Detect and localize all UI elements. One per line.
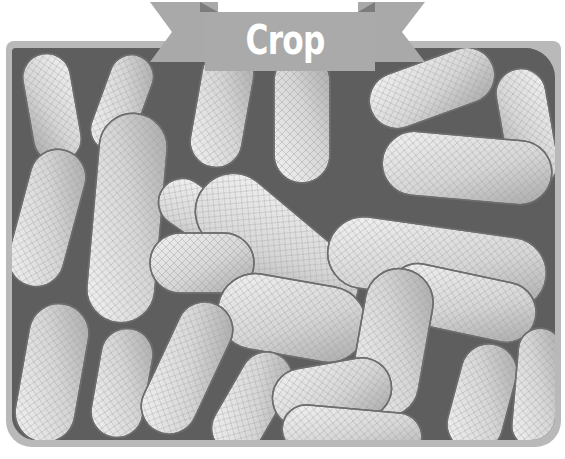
peanuts-photo — [12, 48, 555, 440]
banner-label: Crop — [223, 8, 348, 72]
peanuts-image — [12, 48, 555, 440]
